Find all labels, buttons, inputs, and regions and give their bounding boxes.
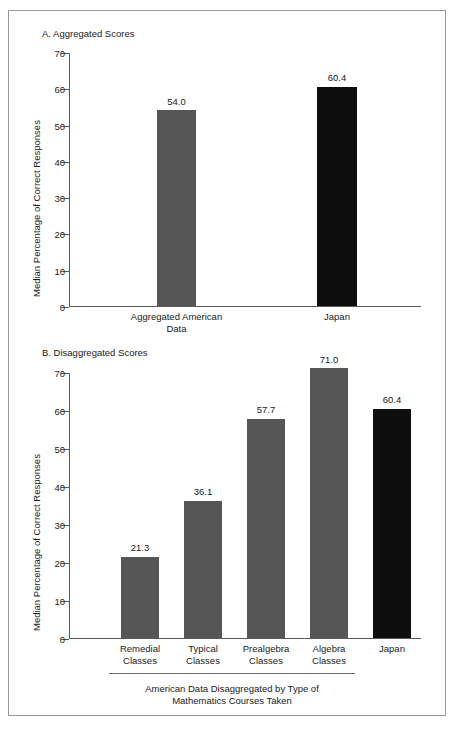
bar-value-japan-disaggregated: 60.4 (383, 394, 402, 405)
panel-a-ytick-label-50: 50 (54, 120, 65, 131)
bar-value-prealgebra-classes: 57.7 (257, 404, 276, 415)
bar-aggregated-american-data (157, 110, 196, 306)
category-label-remedial-classes: Remedial Classes (120, 643, 160, 666)
panel-b-ytick-label-70: 70 (54, 368, 65, 379)
bar-value-typical-classes: 36.1 (194, 486, 213, 497)
bar-value-remedial-classes: 21.3 (131, 542, 150, 553)
panel-a-title: A. Aggregated Scores (42, 28, 134, 39)
category-group-bracket (109, 673, 355, 674)
panel-b-y-axis-line (69, 373, 70, 639)
panel-a-y-axis-title: Median Percentage of Correct Responses (31, 120, 42, 297)
panel-disaggregated-scores: B. Disaggregated Scores Median Percentag… (9, 341, 445, 717)
bar-japan-aggregated (317, 87, 357, 306)
bar-remedial-classes (121, 557, 159, 638)
panel-a-x-axis-line (69, 306, 421, 307)
panel-a-y-axis-line (69, 53, 70, 307)
panel-b-ytick-label-40: 40 (54, 482, 65, 493)
panel-b-ytick-label-10: 10 (54, 596, 65, 607)
figure-frame: A. Aggregated Scores Median Percentage o… (8, 10, 446, 716)
panel-b-ytick-label-50: 50 (54, 444, 65, 455)
panel-b-x-axis-caption: American Data Disaggregated by Type of M… (145, 683, 319, 707)
category-label-aggregated-american-data: Aggregated American Data (131, 311, 222, 334)
bar-typical-classes (184, 501, 222, 638)
panel-a-ytick-label-40: 40 (54, 156, 65, 167)
panel-b-ytick-label-20: 20 (54, 558, 65, 569)
panel-b-x-axis-line (69, 638, 421, 639)
panel-a-plot-area: 0 10 20 30 40 50 (69, 53, 421, 307)
panel-b-plot-area: 0 10 20 30 40 50 (69, 373, 421, 639)
panel-aggregated-scores: A. Aggregated Scores Median Percentage o… (9, 11, 445, 351)
bar-prealgebra-classes (247, 419, 285, 638)
panel-a-ytick-label-30: 30 (54, 193, 65, 204)
panel-a-ytick-label-20: 20 (54, 229, 65, 240)
panel-b-ytick-label-60: 60 (54, 406, 65, 417)
bar-value-japan-aggregated: 60.4 (328, 72, 347, 83)
bar-value-aggregated-american-data: 54.0 (167, 96, 186, 107)
bar-japan-disaggregated (373, 409, 411, 639)
category-label-japan-aggregated: Japan (324, 311, 350, 323)
panel-b-y-axis-title: Median Percentage of Correct Responses (31, 454, 42, 631)
panel-a-ytick-label-60: 60 (54, 84, 65, 95)
category-label-japan-disaggregated: Japan (379, 643, 405, 655)
panel-a-ytick-label-10: 10 (54, 265, 65, 276)
category-label-prealgebra-classes: Prealgebra Classes (243, 643, 289, 666)
category-label-typical-classes: Typical Classes (186, 643, 220, 666)
panel-b-title: B. Disaggregated Scores (42, 347, 148, 358)
category-label-algebra-classes: Algebra Classes (312, 643, 346, 666)
panel-b-ytick-label-30: 30 (54, 520, 65, 531)
panel-a-ytick-label-0: 0 (60, 302, 65, 313)
panel-a-ytick-label-70: 70 (54, 48, 65, 59)
bar-algebra-classes (310, 368, 348, 638)
bar-value-algebra-classes: 71.0 (320, 354, 339, 365)
panel-b-ytick-label-0: 0 (60, 634, 65, 645)
